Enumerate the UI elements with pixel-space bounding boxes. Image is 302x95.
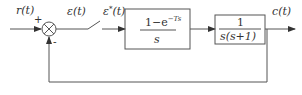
error-signal-label: ε(t) <box>67 5 86 18</box>
sampler-switch <box>88 21 100 29</box>
svg-text:s: s <box>154 33 160 46</box>
svg-text:1: 1 <box>237 16 244 29</box>
svg-text:s(s+1): s(s+1) <box>220 30 256 43</box>
svg-text:ε*(t): ε*(t) <box>103 5 125 18</box>
sampled-error-label: ε*(t) <box>103 5 125 18</box>
plus-sign: + <box>34 14 42 25</box>
summing-junction <box>42 22 56 36</box>
plant-transfer-function: 1 s(s+1) <box>219 16 261 43</box>
input-signal-label: r(t) <box>16 4 34 17</box>
minus-sign: - <box>53 36 57 47</box>
svg-text:1−e−Ts: 1−e−Ts <box>145 15 182 29</box>
block-diagram: r(t) + - ε(t) ε*(t) 1−e−Ts s 1 s(s+1) c(… <box>0 0 302 95</box>
output-signal-label: c(t) <box>272 5 291 18</box>
zoh-transfer-function: 1−e−Ts s <box>140 15 182 46</box>
